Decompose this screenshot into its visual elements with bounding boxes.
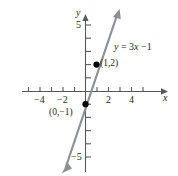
point-0-neg1-label: (0,−1) [49,108,73,118]
point-1-2-label: (1,2) [100,59,118,69]
x-tick-label-2: 2 [106,95,111,105]
point-1-2-dot [93,62,99,68]
graph-figure: −4 −2 2 4 5 −5 y x y = 3x −1 (1,2) (0,−1… [0,0,178,176]
y-axis-arrowhead [82,14,88,21]
equation-eq-part: = 3 [118,41,134,52]
x-tick-label--2: −2 [57,95,68,105]
line-arrowhead-up [113,9,121,19]
y-tick-label-5: 5 [76,20,81,30]
x-tick-label--4: −4 [34,95,45,105]
equation-label: y = 3x −1 [114,42,152,52]
line-arrowhead-down [62,162,72,173]
equation-suffix-part: −1 [139,41,152,52]
y-axis-label: y [76,8,80,18]
x-tick-label-4: 4 [129,95,134,105]
y-tick-label--5: −5 [71,152,82,162]
x-axis-label: x [163,93,167,103]
point-0-neg1-dot [82,101,88,107]
coordinate-plane-svg [0,0,178,176]
